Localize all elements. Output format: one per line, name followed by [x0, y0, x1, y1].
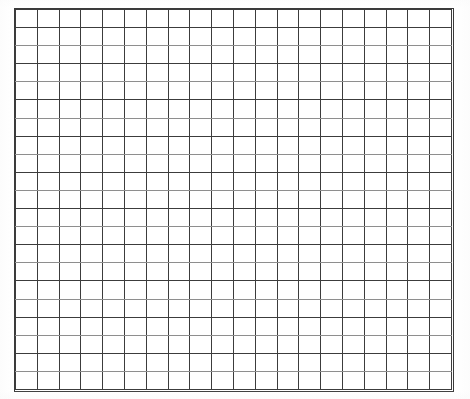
grid-cell — [386, 245, 408, 263]
grid-cell — [212, 190, 234, 208]
grid-cell — [168, 118, 190, 136]
grid-cell — [168, 64, 190, 82]
grid-cell — [190, 172, 212, 190]
grid-cell — [37, 82, 59, 100]
grid-cell — [103, 245, 125, 263]
grid-cell — [386, 118, 408, 136]
grid-cell — [233, 299, 255, 317]
grid-cell — [103, 263, 125, 281]
grid-cell — [364, 335, 386, 353]
grid-cell — [81, 281, 103, 299]
grid-cell — [37, 263, 59, 281]
grid-cell — [81, 335, 103, 353]
grid-cell — [277, 227, 299, 245]
grid-cell — [299, 335, 321, 353]
grid-cell — [146, 100, 168, 118]
grid-cell — [430, 64, 452, 82]
grid-cell — [16, 227, 38, 245]
grid-cell — [190, 190, 212, 208]
grid-cell — [430, 371, 452, 389]
grid-cell — [59, 118, 81, 136]
grid-row — [16, 190, 452, 208]
grid-cell — [408, 28, 430, 46]
grid-cell — [212, 317, 234, 335]
grid-cell — [342, 46, 364, 64]
grid-cell — [168, 317, 190, 335]
grid-cell — [59, 100, 81, 118]
grid-cell — [168, 281, 190, 299]
grid-cell — [59, 299, 81, 317]
grid-cell — [190, 82, 212, 100]
grid-cell — [299, 281, 321, 299]
grid-cell — [103, 136, 125, 154]
grid-cell — [59, 281, 81, 299]
grid-cell — [299, 154, 321, 172]
grid-cell — [212, 100, 234, 118]
grid-cell — [124, 245, 146, 263]
grid-cell — [212, 46, 234, 64]
grid-cell — [124, 28, 146, 46]
grid-cell — [277, 10, 299, 28]
grid-cell — [233, 136, 255, 154]
grid-cell — [124, 353, 146, 371]
grid-cell — [386, 64, 408, 82]
grid-cell — [16, 100, 38, 118]
grid-cell — [212, 353, 234, 371]
grid-cell — [430, 281, 452, 299]
grid-cell — [37, 371, 59, 389]
grid-row — [16, 227, 452, 245]
grid-cell — [342, 335, 364, 353]
grid-cell — [59, 136, 81, 154]
grid-cell — [321, 335, 343, 353]
grid-cell — [146, 46, 168, 64]
grid-cell — [321, 10, 343, 28]
grid-cell — [277, 154, 299, 172]
grid-cell — [408, 190, 430, 208]
grid-cell — [212, 118, 234, 136]
grid-cell — [81, 227, 103, 245]
grid-cell — [342, 190, 364, 208]
grid-cell — [386, 353, 408, 371]
grid-cell — [124, 299, 146, 317]
grid-cell — [81, 82, 103, 100]
grid-cell — [233, 209, 255, 227]
grid-cell — [190, 10, 212, 28]
grid-cell — [364, 299, 386, 317]
grid-cell — [37, 227, 59, 245]
grid-cell — [364, 371, 386, 389]
grid-cell — [408, 281, 430, 299]
grid-cell — [255, 136, 277, 154]
grid-cell — [168, 227, 190, 245]
grid-cell — [190, 299, 212, 317]
grid-row — [16, 118, 452, 136]
grid-cell — [342, 172, 364, 190]
grid-row — [16, 172, 452, 190]
grid-cell — [408, 299, 430, 317]
grid-cell — [408, 172, 430, 190]
grid-cell — [103, 46, 125, 64]
grid-row — [16, 299, 452, 317]
grid-cell — [342, 317, 364, 335]
grid-cell — [190, 154, 212, 172]
grid-cell — [408, 227, 430, 245]
grid-cell — [255, 245, 277, 263]
grid-cell — [190, 335, 212, 353]
grid-cell — [146, 209, 168, 227]
grid-cell — [321, 353, 343, 371]
grid-cell — [364, 317, 386, 335]
grid-cell — [16, 46, 38, 64]
grid-cell — [299, 82, 321, 100]
grid-cell — [146, 136, 168, 154]
grid-cell — [277, 190, 299, 208]
grid-cell — [81, 263, 103, 281]
grid-cell — [16, 299, 38, 317]
grid-cell — [81, 190, 103, 208]
grid-cell — [81, 353, 103, 371]
grid-cell — [212, 64, 234, 82]
grid-cell — [321, 245, 343, 263]
grid-cell — [255, 209, 277, 227]
grid-cell — [190, 317, 212, 335]
grid-cell — [342, 209, 364, 227]
grid-cell — [124, 46, 146, 64]
grid-cell — [321, 154, 343, 172]
